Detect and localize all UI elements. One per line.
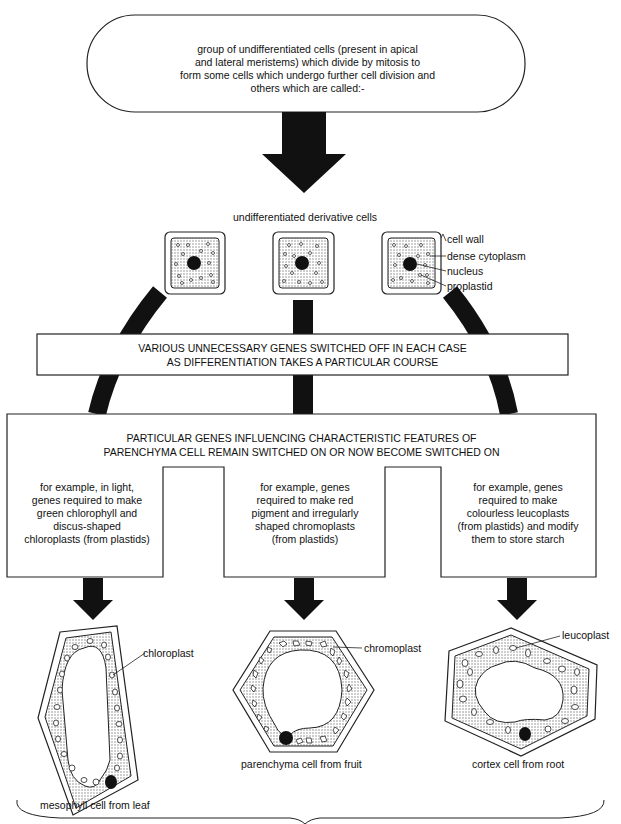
column-fruit-text: for example, genes required to make red … bbox=[230, 481, 380, 546]
leucoplast-label: leucoplast bbox=[562, 629, 609, 641]
proplastid-label: proplastid bbox=[447, 280, 493, 292]
dense-cytoplasm-label: dense cytoplasm bbox=[447, 250, 526, 262]
cortex-cell-drawing bbox=[445, 628, 597, 756]
main-down-arrow bbox=[262, 112, 346, 193]
column-leaf-text: for example, in light, genes required to… bbox=[12, 481, 162, 546]
chloroplast-label: chloroplast bbox=[143, 647, 194, 659]
down-arrow-root bbox=[497, 578, 537, 620]
chromoplast-label: chromoplast bbox=[364, 642, 421, 654]
mesophyll-caption: mesophyll cell from leaf bbox=[40, 799, 150, 811]
cell-wall-label: cell wall bbox=[447, 233, 484, 245]
genes-off-text: VARIOUS UNNECESSARY GENES SWITCHED OFF I… bbox=[37, 341, 568, 369]
parenchyma-cell-drawing bbox=[233, 631, 374, 752]
genes-on-text: PARTICULAR GENES INFLUENCING CHARACTERIS… bbox=[7, 431, 596, 459]
nucleus-label: nucleus bbox=[447, 265, 483, 277]
down-arrow-fruit bbox=[284, 578, 324, 620]
derivative-cell-1 bbox=[165, 232, 225, 294]
diagram-canvas bbox=[0, 0, 621, 824]
column-root-text: for example, genes required to make colo… bbox=[443, 481, 593, 546]
parenchyma-caption: parenchyma cell from fruit bbox=[241, 758, 362, 770]
mesophyll-cell-drawing bbox=[38, 626, 145, 815]
derivative-cell-3 bbox=[382, 232, 446, 294]
cortex-caption: cortex cell from root bbox=[472, 758, 564, 770]
meristem-description: group of undifferentiated cells (present… bbox=[150, 43, 465, 95]
down-arrow-leaf bbox=[73, 578, 113, 620]
derivative-cell-2 bbox=[273, 232, 334, 294]
derivative-cells-heading: undifferentiated derivative cells bbox=[200, 211, 410, 224]
